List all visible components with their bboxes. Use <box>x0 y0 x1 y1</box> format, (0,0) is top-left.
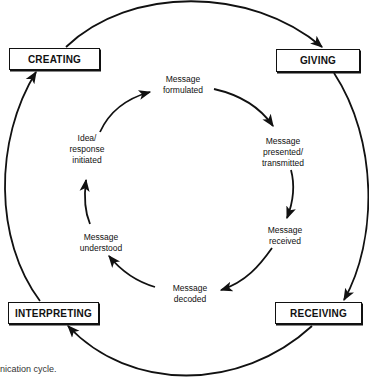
figure-caption: nication cycle. <box>0 364 57 374</box>
arrow-decoded-to-understood <box>109 256 155 287</box>
stage-giving: GIVING <box>276 49 360 72</box>
stage-interpreting: INTERPRETING <box>8 302 99 324</box>
stage-creating-label: CREATING <box>28 54 81 65</box>
arrow-giving-to-receiving <box>334 73 368 300</box>
stage-receiving: RECEIVING <box>275 302 362 324</box>
stage-creating: CREATING <box>9 48 100 70</box>
step-message-understood: Message understood <box>80 232 123 254</box>
inner-cycle <box>85 89 294 290</box>
step-message-presented: Message presented/ transmitted <box>262 136 304 169</box>
stage-receiving-label: RECEIVING <box>290 308 347 319</box>
arrow-understood-to-idea <box>85 180 90 224</box>
stage-interpreting-label: INTERPRETING <box>15 308 92 319</box>
step-message-formulated: Message formulated <box>163 74 203 96</box>
stage-giving-label: GIVING <box>300 55 336 66</box>
step-idea-initiated: Idea/ response initiated <box>70 133 105 166</box>
arrow-interpreting-to-creating <box>5 72 40 301</box>
arrow-received-to-decoded <box>221 248 272 290</box>
step-message-received: Message received <box>268 225 303 247</box>
arrow-formulated-to-presented <box>214 89 273 126</box>
arrow-idea-to-formulated <box>100 92 150 132</box>
arrow-receiving-to-interpreting <box>68 326 312 376</box>
arrow-presented-to-received <box>287 170 293 218</box>
step-message-decoded: Message decoded <box>173 283 208 305</box>
arrow-creating-to-giving <box>66 1 322 47</box>
